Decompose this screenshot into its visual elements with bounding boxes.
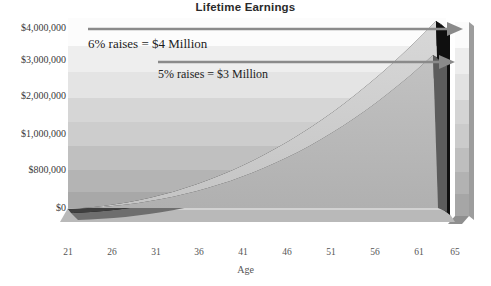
y-tick-label: $0 <box>0 202 66 213</box>
chart-container: Lifetime Earnings <box>0 0 491 286</box>
x-tick-label: 21 <box>53 247 83 257</box>
x-tick-label: 51 <box>316 247 346 257</box>
y-tick-label: $1,000,000 <box>0 128 66 139</box>
x-tick-label: 65 <box>440 247 470 257</box>
background-side-wall <box>448 22 474 224</box>
annotation-5-percent: 5% raises = $3 Million <box>158 67 268 82</box>
annotation-6-percent: 6% raises = $4 Million <box>88 36 207 52</box>
x-tick-label: 41 <box>228 247 258 257</box>
y-tick-label: $3,000,000 <box>0 54 66 65</box>
x-tick-label: 61 <box>404 247 434 257</box>
x-tick-label: 36 <box>184 247 214 257</box>
lifetime-earnings-area-chart <box>0 0 491 286</box>
x-tick-label: 26 <box>97 247 127 257</box>
x-axis-title: Age <box>0 264 491 275</box>
x-tick-label: 56 <box>360 247 390 257</box>
y-tick-label: $4,000,000 <box>0 22 66 33</box>
x-tick-label: 31 <box>141 247 171 257</box>
y-tick-label: $800,000 <box>0 164 66 175</box>
x-tick-label: 46 <box>272 247 302 257</box>
y-tick-label: $2,000,000 <box>0 90 66 101</box>
